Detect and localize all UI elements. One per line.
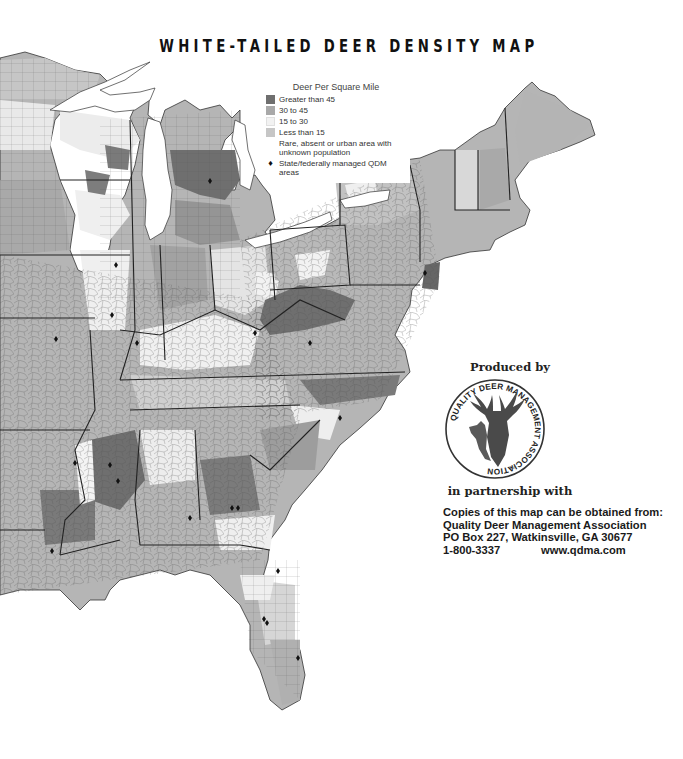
legend-item-30-to-45: 30 to 45: [266, 106, 406, 115]
copies-label: Copies of this map can be obtained from:: [443, 506, 663, 519]
mailing-address: PO Box 227, Watkinsville, GA 30677: [443, 531, 663, 544]
qdma-logo: QUALITY DEER MANAGEMENT ASSOCIATION TM: [443, 377, 547, 481]
legend-label: Greater than 45: [279, 95, 335, 104]
legend-item-15-to-30: 15 to 30: [266, 117, 406, 126]
map-title: WHITE-TAILED DEER DENSITY MAP: [83, 36, 616, 56]
swatch-30-to-45: [266, 106, 275, 115]
organization-name: Quality Deer Management Association: [443, 519, 663, 532]
legend-title: Deer Per Square Mile: [266, 82, 406, 92]
legend-item-greater-than-45: Greater than 45: [266, 95, 406, 104]
website-link[interactable]: www.qdma.com: [541, 544, 626, 557]
legend-item-rare-absent: Rare, absent or urban area with unknown …: [266, 139, 406, 157]
swatch-less-than-15: [266, 128, 275, 137]
partnership-label: in partnership with: [430, 484, 590, 498]
swatch-15-to-30: [266, 117, 275, 126]
swatch-greater-than-45: [266, 95, 275, 104]
legend-label: 30 to 45: [279, 106, 308, 115]
legend-item-qdm-areas: ♦ State/federally managed QDM areas: [266, 159, 406, 177]
map-legend: Deer Per Square Mile Greater than 45 30 …: [262, 80, 410, 183]
legend-label: Rare, absent or urban area with unknown …: [279, 139, 406, 157]
diamond-icon: ♦: [266, 159, 275, 168]
contact-info: Copies of this map can be obtained from:…: [443, 506, 663, 556]
swatch-rare-absent: [266, 139, 275, 148]
legend-item-less-than-15: Less than 15: [266, 128, 406, 137]
legend-label: Less than 15: [279, 128, 325, 137]
legend-label: 15 to 30: [279, 117, 308, 126]
legend-label: State/federally managed QDM areas: [279, 159, 406, 177]
phone-number: 1-800-3337: [443, 544, 541, 557]
trademark-label: TM: [509, 465, 515, 470]
produced-by-label: Produced by: [430, 360, 590, 374]
